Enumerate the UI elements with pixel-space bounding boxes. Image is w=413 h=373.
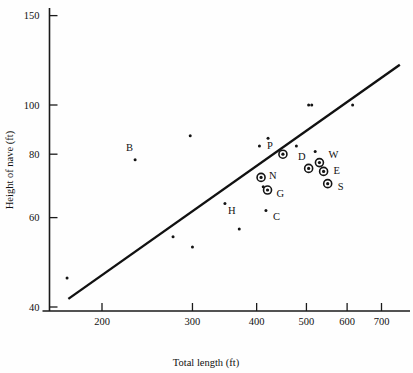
data-point-core-P: [281, 153, 284, 156]
data-point: [314, 150, 317, 153]
data-point: [310, 104, 313, 107]
data-point-core-S: [326, 182, 329, 185]
point-label-B: B: [126, 142, 133, 153]
x-tick-label-600: 600: [339, 316, 355, 327]
data-point: [351, 104, 354, 107]
point-label-W: W: [328, 149, 338, 160]
point-label-S: S: [338, 181, 344, 192]
data-point: [172, 235, 175, 238]
regression-line: [68, 65, 399, 299]
x-tick-label-200: 200: [94, 316, 110, 327]
y-tick-label-60: 60: [29, 212, 40, 223]
data-points-group: [66, 104, 355, 280]
data-point: [189, 134, 192, 137]
trendline-group: [68, 65, 399, 299]
point-label-H: H: [228, 205, 236, 216]
x-axis-title: Total length (ft): [173, 357, 240, 369]
point-label-C: C: [273, 211, 280, 222]
x-tick-label-500: 500: [299, 316, 315, 327]
x-tick-label-700: 700: [374, 316, 390, 327]
scatter-chart: 406080100150200300400500600700 BHNGCPDWE…: [0, 0, 413, 373]
point-label-E: E: [334, 165, 340, 176]
point-label-D: D: [298, 151, 306, 162]
data-point: [258, 145, 261, 148]
axis-titles-group: Total length (ft) Height of nave (ft): [4, 130, 240, 369]
data-point-core-E: [322, 170, 325, 173]
x-tick-label-300: 300: [185, 316, 201, 327]
data-point: [295, 145, 298, 148]
data-point-B: [134, 158, 137, 161]
data-point: [238, 227, 241, 230]
x-tick-label-400: 400: [249, 316, 265, 327]
point-label-G: G: [277, 188, 285, 199]
data-point-core-W: [318, 161, 321, 164]
data-point-H: [223, 202, 226, 205]
y-tick-label-100: 100: [24, 100, 40, 111]
data-point-C: [264, 209, 267, 212]
point-label-P: P: [267, 140, 273, 151]
y-axis-title: Height of nave (ft): [4, 130, 16, 209]
data-point-core-G: [266, 188, 269, 191]
y-tick-label-40: 40: [29, 302, 40, 313]
point-label-N: N: [269, 170, 277, 181]
axes-group: 406080100150200300400500600700: [24, 8, 410, 327]
data-point: [307, 104, 310, 107]
data-point: [66, 277, 69, 280]
data-point-core-D: [307, 167, 310, 170]
y-tick-label-150: 150: [24, 10, 40, 21]
y-tick-label-80: 80: [29, 149, 40, 160]
data-point: [191, 246, 194, 249]
plot-canvas: 406080100150200300400500600700 BHNGCPDWE…: [0, 0, 413, 373]
data-point-core-N: [259, 176, 262, 179]
